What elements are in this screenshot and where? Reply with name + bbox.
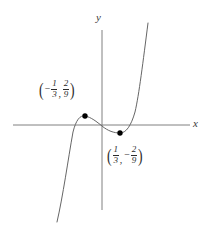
local-minimum-point-marker [117, 130, 122, 135]
local-maximum-expression: ( − 1 3 , 2 9 ) [38, 79, 76, 99]
x-numerator: 1 [52, 79, 57, 89]
open-paren: ( [39, 80, 44, 99]
y-numerator: 2 [64, 79, 69, 89]
local-minimum-expression: ( 1 3 , − 2 9 ) [106, 145, 144, 165]
x-numerator: 1 [114, 145, 119, 155]
x-fraction: 1 3 [112, 145, 119, 165]
y-denominator: 9 [64, 90, 69, 100]
y-sign: − [124, 150, 131, 160]
open-paren: ( [107, 146, 112, 165]
y-fraction: 2 9 [130, 145, 137, 165]
close-paren: ) [138, 146, 143, 165]
math-figure-cubic-curve: y x ( − 1 3 , 2 9 ) ( 1 3 [0, 0, 219, 233]
close-paren: ) [70, 80, 75, 99]
y-fraction: 2 9 [62, 79, 69, 99]
x-denominator: 3 [114, 156, 119, 166]
x-axis-label: x [193, 118, 198, 129]
x-sign: − [44, 84, 51, 94]
x-fraction: 1 3 [51, 79, 58, 99]
local-maximum-point-label: ( − 1 3 , 2 9 ) [38, 79, 76, 99]
y-axis-label: y [96, 12, 101, 23]
local-minimum-point-label: ( 1 3 , − 2 9 ) [106, 145, 144, 165]
y-denominator: 9 [132, 156, 137, 166]
plot-canvas [0, 0, 219, 233]
x-denominator: 3 [52, 90, 57, 100]
local-maximum-point-marker [82, 113, 87, 118]
y-numerator: 2 [132, 145, 137, 155]
